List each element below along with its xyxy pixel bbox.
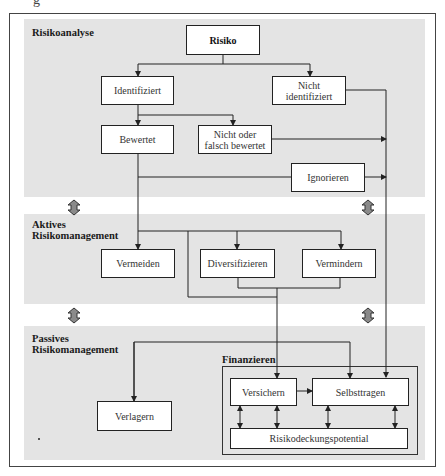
node-verlagern: Verlagern [97, 401, 172, 431]
section-label-aktives: Aktives Risikomanagement [32, 219, 118, 241]
node-label: Vermeiden [116, 258, 159, 269]
node-vermeiden: Vermeiden [101, 249, 175, 278]
node-label: Ignorieren [307, 172, 349, 183]
section-label-line2: Risikomanagement [32, 344, 118, 355]
section-label-line2: Risikomanagement [32, 230, 118, 241]
node-risiko: Risiko [186, 25, 260, 55]
section-label-line1: Passives [32, 333, 118, 344]
node-label-line1: Nicht oder [214, 129, 257, 140]
section-label-line1: Aktives [32, 219, 118, 230]
node-label: Risiko [209, 35, 236, 46]
node-diversifizieren: Diversifizieren [200, 249, 275, 278]
header-fragment: g [33, 0, 40, 8]
node-label-line2: falsch bewertet [205, 140, 266, 151]
node-identifiziert: Identifiziert [101, 76, 174, 105]
node-label: Bewertet [119, 134, 155, 145]
node-ignorieren: Ignorieren [291, 163, 365, 192]
stray-dot [38, 438, 40, 440]
node-label: Verlagern [115, 411, 154, 422]
node-versichern: Versichern [230, 378, 297, 406]
node-vermindern: Vermindern [302, 249, 376, 278]
node-label-line2: identifiziert [286, 91, 333, 102]
section-label-risikoanalyse: Risikoanalyse [32, 27, 94, 38]
node-bewertet: Bewertet [101, 125, 174, 154]
node-selbsttragen: Selbsttragen [312, 378, 409, 406]
node-nicht-oder-falsch-bewertet: Nicht oder falsch bewertet [198, 125, 272, 154]
container-label-finanzieren: Finanzieren [222, 354, 275, 365]
node-label: Risikodeckungspotential [270, 433, 369, 444]
section-label-passives: Passives Risikomanagement [32, 333, 118, 355]
node-label: Versichern [242, 387, 285, 398]
node-label: Diversifizieren [208, 258, 268, 269]
node-risikodeckungspotential: Risikodeckungspotential [230, 428, 408, 449]
node-nicht-identifiziert: Nicht identifiziert [272, 76, 346, 105]
node-label: Selbsttragen [336, 387, 385, 398]
section-label-text: Risikoanalyse [32, 27, 94, 38]
node-label-line1: Nicht [298, 80, 320, 91]
node-label: Identifiziert [114, 85, 161, 96]
node-label: Vermindern [315, 258, 362, 269]
